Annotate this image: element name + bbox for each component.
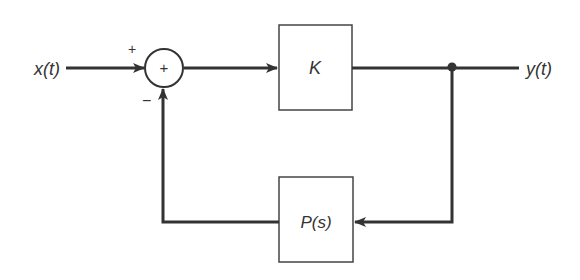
input-signal-label: x(t) <box>33 59 60 79</box>
forward-block-label: K <box>309 58 322 78</box>
feedback-block-label: P(s) <box>300 213 331 232</box>
summing-junction: + <box>145 49 183 87</box>
feedback-sign-minus: − <box>142 92 151 109</box>
forward-block-k: K <box>279 25 352 110</box>
input-sign-plus: + <box>128 41 136 57</box>
summing-symbol: + <box>160 59 169 76</box>
feedback-path-left <box>163 89 279 222</box>
output-signal-label: y(t) <box>524 59 552 79</box>
block-diagram: x(t) + + − K y(t) P(s) <box>0 0 580 280</box>
feedback-block-p: P(s) <box>279 177 353 262</box>
feedback-path-right <box>355 67 452 222</box>
